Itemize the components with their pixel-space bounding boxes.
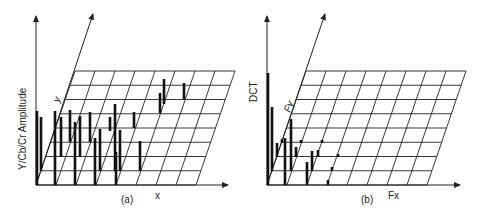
panel-b: DCT Fy Fx (b) [248,14,466,205]
panel-a-caption: (a) [121,194,133,205]
panel-b-vertical-axis-label: DCT [248,81,259,102]
panel-a-grid [36,71,235,185]
panel-b-horizontal-axis-label: Fx [388,190,399,201]
panel-b-depth-axis-label: Fy [282,99,296,114]
panel-b-caption: (b) [361,194,373,205]
panel-b-bars [268,73,338,185]
panel-a-horizontal-axis-label: x [155,190,160,201]
panel-a-depth-axis-label: y [50,94,63,104]
panel-a-vertical-axis-label: Y/Cb/Cr Amplitude [17,87,28,170]
panel-a-bars [37,79,184,185]
panel-a: Y/Cb/Cr Amplitude y x (a) [17,14,235,205]
panel-b-grid [267,71,466,185]
diagram-canvas: Y/Cb/Cr Amplitude y x (a) DCT Fy Fx (b) [0,0,484,216]
